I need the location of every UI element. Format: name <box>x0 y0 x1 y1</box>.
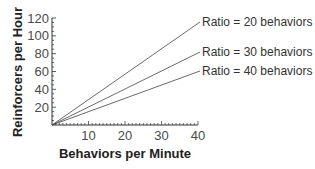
series-line <box>52 71 200 125</box>
series-label: Ratio = 20 behaviors <box>202 15 312 29</box>
axes: 2040608010012010203040 <box>27 11 205 144</box>
y-axis-title: Reinforcers per Hour <box>10 7 25 137</box>
y-tick-label: 60 <box>35 64 49 79</box>
x-tick-label: 30 <box>154 128 168 143</box>
series-label: Ratio = 30 behaviors <box>202 45 312 59</box>
series-line <box>52 52 200 125</box>
series-line <box>52 22 200 125</box>
x-axis-title: Behaviors per Minute <box>59 146 191 161</box>
y-tick-label: 100 <box>27 28 49 43</box>
y-tick-label: 40 <box>35 82 49 97</box>
chart-canvas: 2040608010012010203040 Ratio = 20 behavi… <box>0 0 315 169</box>
y-tick-label: 80 <box>35 46 49 61</box>
x-tick-label: 40 <box>191 128 205 143</box>
x-tick-label: 20 <box>118 128 132 143</box>
y-tick-label: 120 <box>27 11 49 26</box>
series-lines <box>52 22 200 125</box>
y-tick-label: 20 <box>35 100 49 115</box>
x-tick-label: 10 <box>81 128 95 143</box>
series-label: Ratio = 40 behaviors <box>202 64 312 78</box>
series-labels: Ratio = 20 behaviorsRatio = 30 behaviors… <box>202 15 312 78</box>
